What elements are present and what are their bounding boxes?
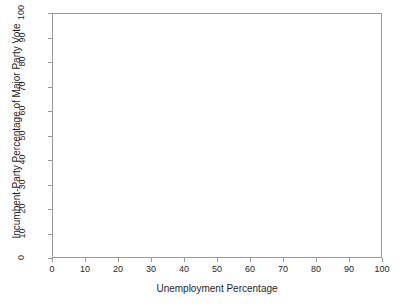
y-tick-mark bbox=[48, 234, 52, 235]
y-axis-title: Incumbent-Party Percentage of Major Part… bbox=[11, 6, 23, 256]
chart-canvas: 0102030405060708090100 01020304050607080… bbox=[0, 0, 408, 308]
x-tick-mark bbox=[349, 258, 350, 262]
x-tick-mark bbox=[316, 258, 317, 262]
y-tick-mark bbox=[48, 13, 52, 14]
y-tick-mark bbox=[48, 111, 52, 112]
x-tick-mark bbox=[250, 258, 251, 262]
y-tick-mark bbox=[48, 258, 52, 259]
x-tick-mark bbox=[151, 258, 152, 262]
y-tick-mark bbox=[48, 87, 52, 88]
x-tick-label: 100 bbox=[362, 264, 402, 275]
x-tick-mark bbox=[85, 258, 86, 262]
y-tick-mark bbox=[48, 185, 52, 186]
y-tick-mark bbox=[48, 136, 52, 137]
y-tick-mark bbox=[48, 62, 52, 63]
y-tick-mark bbox=[48, 38, 52, 39]
plot-data-area bbox=[53, 14, 381, 257]
x-tick-mark bbox=[283, 258, 284, 262]
x-tick-mark bbox=[382, 258, 383, 262]
x-tick-mark bbox=[217, 258, 218, 262]
x-tick-mark bbox=[118, 258, 119, 262]
x-tick-mark bbox=[184, 258, 185, 262]
plot-frame bbox=[52, 13, 382, 258]
y-tick-mark bbox=[48, 209, 52, 210]
y-tick-mark bbox=[48, 160, 52, 161]
x-axis-title: Unemployment Percentage bbox=[52, 283, 382, 295]
x-tick-mark bbox=[52, 258, 53, 262]
